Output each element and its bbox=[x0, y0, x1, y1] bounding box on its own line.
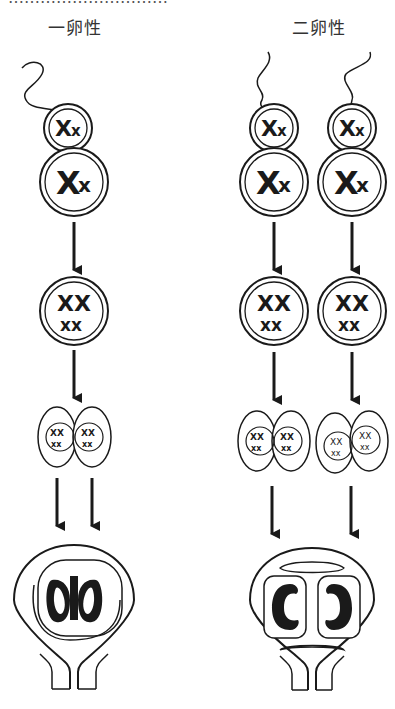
egg-cell-icon: X x bbox=[40, 148, 108, 216]
svg-text:XX: XX bbox=[257, 291, 291, 316]
svg-text:X: X bbox=[339, 116, 356, 141]
svg-text:x: x bbox=[355, 122, 365, 140]
svg-text:xx: xx bbox=[82, 440, 93, 449]
svg-text:XX: XX bbox=[335, 291, 369, 316]
svg-text:xx: xx bbox=[260, 315, 282, 335]
svg-text:XX: XX bbox=[280, 432, 294, 442]
svg-text:XX: XX bbox=[330, 437, 342, 447]
zygote-icon: XX xx bbox=[40, 277, 108, 345]
sperm-cell-icon: X x bbox=[328, 104, 376, 152]
svg-text:XX: XX bbox=[81, 428, 95, 438]
uterus-shared-sac-icon bbox=[14, 545, 134, 689]
svg-text:xx: xx bbox=[338, 315, 360, 335]
twin-development-diagram: X x X x XX xx XX xx XX xx bbox=[0, 0, 395, 709]
svg-text:xx: xx bbox=[331, 449, 341, 458]
sperm-cell-icon: X x bbox=[44, 104, 92, 152]
svg-text:x: x bbox=[71, 122, 81, 140]
svg-text:xx: xx bbox=[360, 443, 370, 452]
zygote-icon: XX xx bbox=[318, 277, 386, 345]
svg-text:xx: xx bbox=[251, 444, 262, 453]
sperm-tail-icon bbox=[22, 62, 56, 110]
svg-text:X: X bbox=[261, 116, 278, 141]
svg-text:XX: XX bbox=[57, 291, 91, 316]
svg-text:x: x bbox=[78, 173, 91, 197]
svg-text:XX: XX bbox=[50, 428, 64, 438]
dizygotic-column: X x X x X x X x XX xx XX bbox=[238, 52, 388, 690]
monozygotic-column: X x X x XX xx XX xx XX xx bbox=[14, 62, 134, 689]
two-cell-icon: XX xx XX xx bbox=[316, 411, 388, 473]
sperm-tail-icon bbox=[345, 52, 371, 112]
svg-text:XX: XX bbox=[359, 431, 371, 441]
svg-text:xx: xx bbox=[51, 440, 62, 449]
svg-text:X: X bbox=[55, 116, 72, 141]
svg-text:xx: xx bbox=[60, 315, 82, 335]
egg-cell-icon: X x bbox=[240, 148, 308, 216]
sperm-tail-icon bbox=[257, 52, 272, 112]
svg-text:x: x bbox=[356, 173, 369, 197]
svg-text:x: x bbox=[278, 173, 291, 197]
svg-text:xx: xx bbox=[281, 444, 292, 453]
svg-text:x: x bbox=[277, 122, 287, 140]
zygote-icon: XX xx bbox=[240, 277, 308, 345]
svg-text:XX: XX bbox=[250, 432, 264, 442]
sperm-cell-icon: X x bbox=[250, 104, 298, 152]
egg-cell-icon: X x bbox=[318, 148, 386, 216]
two-cell-icon: XX xx XX xx bbox=[38, 407, 111, 467]
two-cell-icon: XX xx XX xx bbox=[238, 411, 310, 471]
uterus-separate-sacs-icon bbox=[250, 548, 374, 690]
